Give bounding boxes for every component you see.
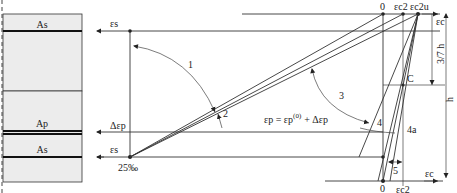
label-as-top: As — [36, 19, 47, 30]
label-eps-c-top: εc — [436, 16, 445, 27]
label-domain-2: 2 — [223, 108, 228, 119]
label-as-bottom: As — [36, 144, 47, 155]
label-eps-s-top: εs — [110, 18, 118, 29]
label-domain-1: 1 — [188, 59, 193, 70]
strain-lines — [130, 14, 418, 181]
label-25-permil: 25‰ — [118, 162, 138, 173]
label-domain-5: 5 — [393, 165, 398, 176]
label-zero-bottom: 0 — [380, 183, 385, 193]
point-eps-s-top — [128, 29, 132, 33]
label-point-c: C — [407, 73, 414, 84]
strain-diagram: As Ap As — [0, 0, 457, 193]
label-domain-4: 4 — [377, 117, 382, 128]
label-eps-c-bottom: εc — [425, 168, 434, 179]
label-ap: Ap — [36, 118, 48, 129]
label-eps-s-bottom: εs — [110, 144, 118, 155]
section-bottom — [3, 91, 82, 182]
label-delta-eps-p: Δεp — [110, 120, 126, 131]
label-domain-3: 3 — [339, 90, 344, 101]
label-eps-c2-bottom: εc2 — [396, 184, 410, 193]
label-domain-4a: 4a — [407, 124, 417, 135]
reference-lines — [97, 14, 445, 181]
label-eps-c2u: εc2u — [410, 1, 429, 12]
arrow-domain-1 — [134, 46, 215, 112]
arrow-domain-2 — [218, 114, 222, 128]
label-3-7-h: 3/7 h — [435, 44, 446, 64]
label-eps-c2-top: εc2 — [394, 1, 408, 12]
label-prestress-equation: εp = εp(0)+ Δεp — [264, 112, 328, 125]
cross-section: As Ap As — [2, 0, 82, 193]
label-h: h — [444, 97, 455, 102]
label-zero-top: 0 — [380, 1, 385, 12]
